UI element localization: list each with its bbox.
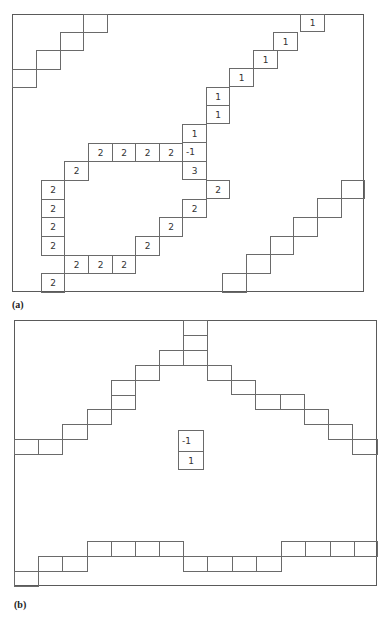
grid-cell <box>328 424 353 440</box>
grid-cell <box>111 395 136 410</box>
grid-cell <box>87 541 112 557</box>
grid-cell: 2 <box>135 143 160 162</box>
grid-cell <box>62 424 88 440</box>
grid-cell: 1 <box>182 124 207 143</box>
grid-cell <box>341 180 365 199</box>
grid-cell <box>232 556 257 572</box>
grid-cell <box>62 556 88 572</box>
grid-cell <box>135 365 160 381</box>
grid-cell <box>38 556 63 572</box>
grid-cell: 2 <box>206 180 230 199</box>
grid-cell <box>183 320 208 336</box>
grid-cell: 2 <box>64 255 89 274</box>
grid-cell <box>330 541 355 557</box>
grid-cell: 2 <box>41 236 65 256</box>
grid-cell: 1 <box>229 68 254 87</box>
grid-cell <box>87 409 112 425</box>
grid-cell: 2 <box>182 199 207 218</box>
panel-b-label: (b) <box>14 599 26 610</box>
grid-cell <box>281 541 306 557</box>
grid-cell: 2 <box>41 199 65 218</box>
grid-cell <box>270 236 294 255</box>
grid-cell <box>12 69 37 88</box>
grid-cell: 1 <box>206 87 230 106</box>
grid-cell: 2 <box>41 273 65 293</box>
grid-cell <box>159 350 184 366</box>
grid-cell: 1 <box>206 105 230 124</box>
grid-cell: 2 <box>64 161 89 181</box>
grid-cell <box>159 541 184 557</box>
grid-cell <box>36 50 61 70</box>
grid-cell <box>207 365 232 381</box>
grid-cell <box>305 541 331 557</box>
grid-cell: 2 <box>112 143 136 162</box>
panel-a-label: (a) <box>12 299 24 310</box>
grid-cell <box>183 350 208 366</box>
grid-cell <box>14 571 39 587</box>
grid-cell: 2 <box>112 255 136 274</box>
grid-cell: 3 <box>182 161 207 180</box>
grid-cell <box>38 439 63 455</box>
grid-cell: 1 <box>273 32 298 51</box>
grid-cell <box>256 556 282 572</box>
grid-cell <box>183 556 208 572</box>
grid-cell <box>135 541 160 557</box>
grid-cell: 2 <box>41 217 65 237</box>
grid-cell <box>111 380 136 396</box>
grid-cell <box>304 409 329 425</box>
grid-cell <box>83 14 108 33</box>
grid-cell: 1 <box>300 14 325 32</box>
grid-cell <box>246 254 271 274</box>
grid-cell <box>231 380 256 395</box>
grid-cell: 1 <box>253 50 278 69</box>
grid-cell: 2 <box>88 143 113 162</box>
grid-cell: 2 <box>88 255 113 274</box>
grid-cell: 2 <box>159 217 183 237</box>
grid-cell <box>317 198 342 218</box>
grid-cell: 2 <box>41 180 65 200</box>
grid-cell <box>222 273 247 293</box>
grid-cell: 2 <box>159 143 183 162</box>
grid-cell <box>354 541 378 557</box>
grid-cell <box>183 335 208 351</box>
grid-cell <box>111 541 136 557</box>
grid-cell: 2 <box>135 236 160 256</box>
grid-cell: 1 <box>178 451 204 470</box>
grid-cell <box>280 394 305 410</box>
grid-cell <box>60 32 84 51</box>
grid-cell <box>207 556 233 572</box>
grid-cell <box>255 394 281 410</box>
grid-cell: -1 <box>178 430 204 452</box>
grid-cell: -1 <box>182 142 207 162</box>
grid-cell <box>352 439 378 455</box>
grid-cell <box>293 217 318 237</box>
grid-cell <box>14 439 39 455</box>
